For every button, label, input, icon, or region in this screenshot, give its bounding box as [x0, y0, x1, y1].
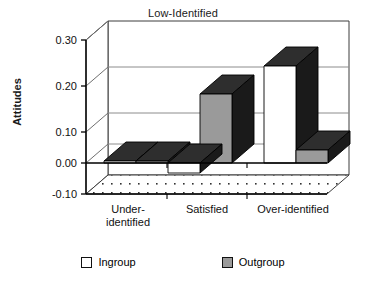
y-tick-label-0: 0.30: [56, 34, 77, 46]
legend-label-outgroup: Outgroup: [239, 256, 285, 268]
y-tick-label-2: 0.10: [56, 126, 77, 138]
x-category-label-1: Satisfied: [186, 203, 228, 215]
x-category-label-0-line-0: Under-: [111, 203, 145, 215]
legend-label-ingroup: Ingroup: [98, 256, 135, 268]
chart-plot-area: 0.30 0.20 0.10 0.00 -0.10: [0, 0, 366, 285]
floor-plane: [86, 175, 349, 194]
y-tick-label-3: 0.00: [56, 157, 77, 169]
y-tick-label-1: 0.20: [56, 80, 77, 92]
y-tick-label-4: -0.10: [52, 188, 77, 200]
chart-legend: Ingroup Outgroup: [0, 256, 366, 268]
left-wall: [86, 21, 108, 194]
x-category-label-0-line-1: identified: [106, 216, 150, 228]
legend-swatch-ingroup-icon: [81, 257, 92, 268]
legend-swatch-outgroup-icon: [222, 257, 233, 268]
chart-root: Low-Identified Attitudes: [0, 0, 366, 285]
legend-item-ingroup: Ingroup: [81, 256, 135, 268]
legend-item-outgroup: Outgroup: [222, 256, 285, 268]
x-category-label-2: Over-identified: [257, 203, 329, 215]
